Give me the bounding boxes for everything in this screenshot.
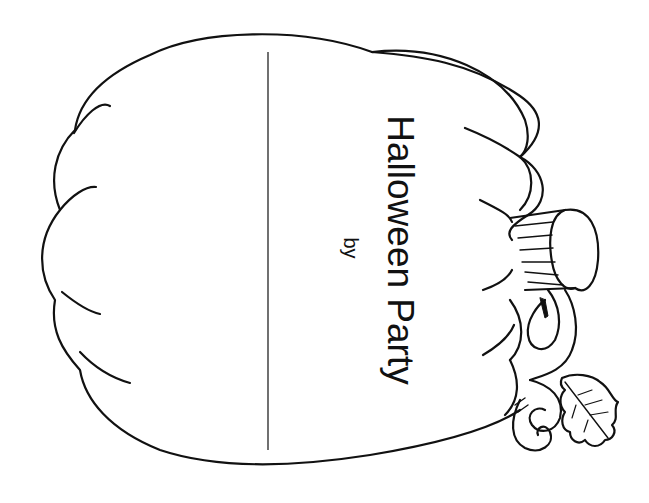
pumpkin-rib	[62, 292, 100, 314]
pumpkin-rib	[465, 128, 520, 157]
pumpkin-rib	[60, 187, 96, 210]
vine	[513, 290, 576, 450]
pumpkin-rib	[483, 325, 514, 355]
byline-label: by	[339, 237, 362, 258]
pumpkin-outline	[42, 34, 543, 464]
pumpkin-rib	[483, 270, 512, 290]
pumpkin-rib	[74, 105, 110, 133]
page-title: Halloween Party	[379, 115, 421, 384]
leaf	[560, 375, 618, 446]
stem	[510, 210, 598, 291]
pumpkin-rib	[480, 200, 512, 222]
pumpkin-rib	[80, 352, 130, 383]
pumpkin-illustration	[0, 0, 649, 503]
